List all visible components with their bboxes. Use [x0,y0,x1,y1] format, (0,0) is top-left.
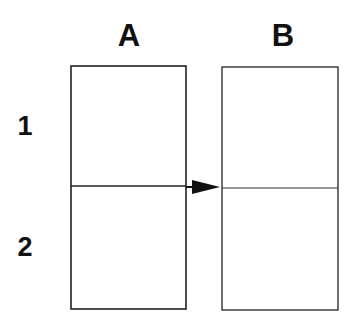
row-label-1: 1 [17,111,32,141]
diagram-canvas: A B 1 2 [0,0,356,327]
transfer-arrow [186,180,220,194]
column-label-a: A [118,18,140,53]
row-label-2: 2 [17,232,32,262]
column-label-b: B [272,18,294,53]
box-b [222,67,338,310]
box-a-outline [71,66,186,309]
arrow-head-icon [192,180,220,194]
box-a [71,66,186,309]
